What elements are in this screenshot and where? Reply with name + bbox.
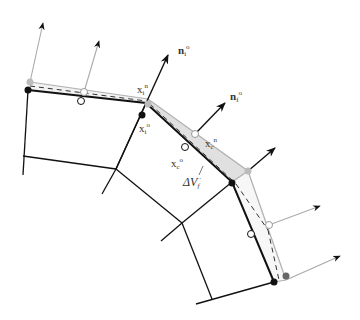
old-face-center — [248, 231, 255, 238]
new-face-center — [81, 89, 88, 96]
swept-volume-region — [146, 99, 248, 182]
new-node-xin — [145, 101, 152, 108]
label-x-c-old: xco — [171, 157, 183, 171]
label-x-i-old: xio — [139, 122, 150, 136]
label-x-c-new: xcn — [205, 137, 217, 151]
mesh-motion-diagram: nio nfo xin xio xcn xco ΔVf· — [0, 0, 360, 320]
new-node — [245, 168, 252, 175]
old-node-xio — [139, 112, 146, 119]
old-node — [25, 87, 32, 94]
swept-volume-region-lower — [232, 171, 286, 282]
old-face-center — [78, 98, 85, 105]
label-delta-v: ΔVf· — [183, 176, 201, 190]
label-x-i-new: xin — [137, 83, 148, 97]
new-node — [27, 79, 34, 86]
label-n-f: nfo — [230, 90, 242, 104]
delta-v-leader — [199, 166, 203, 175]
gray-normals — [30, 23, 340, 280]
new-node-dark — [283, 273, 290, 280]
new-face-center — [266, 222, 273, 229]
old-node — [271, 279, 278, 286]
new-face-center-xcn — [192, 131, 199, 138]
label-n-i: nio — [178, 44, 190, 58]
old-face-center-xco — [182, 144, 189, 151]
old-node — [229, 180, 236, 187]
